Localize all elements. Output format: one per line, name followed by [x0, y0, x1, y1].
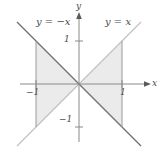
- x-tick-label-positive-1: 1: [120, 88, 126, 97]
- plot-canvas: [0, 0, 162, 150]
- annotation-line-y-equals-negative-x: y = −x: [36, 17, 70, 27]
- x-axis-arrowhead: [144, 81, 151, 87]
- y-tick-label-positive-1: 1: [64, 35, 70, 44]
- graph-figure: y = −x y = x y x −1 1 1 −1: [0, 0, 162, 150]
- y-axis-label: y: [76, 2, 81, 11]
- y-tick-label-negative-1: −1: [59, 115, 72, 124]
- y-axis-arrowhead: [76, 12, 82, 19]
- x-tick-label-negative-1: −1: [26, 88, 39, 97]
- annotation-line-y-equals-x: y = x: [105, 17, 131, 27]
- x-axis-label: x: [152, 79, 157, 88]
